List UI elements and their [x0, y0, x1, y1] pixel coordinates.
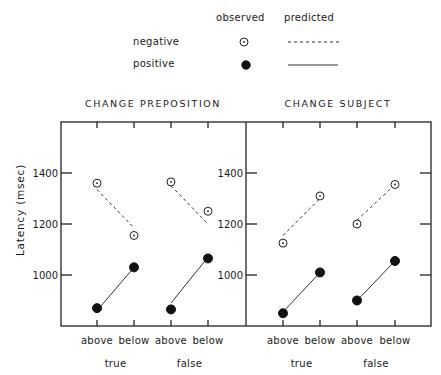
y-tick-label: 1400 — [218, 168, 243, 179]
category-label: below — [192, 335, 223, 346]
observed-negative-point-center — [170, 181, 172, 183]
legend-label-positive: positive — [133, 58, 175, 69]
observed-negative-point-center — [394, 184, 396, 186]
category-label: below — [379, 335, 410, 346]
category-label: above — [267, 335, 299, 346]
group-label: false — [177, 358, 202, 369]
predicted-positive-line — [357, 261, 395, 301]
observed-negative-point-center — [96, 182, 98, 184]
observed-negative-point-center — [207, 210, 209, 212]
y-tick-label: 1200 — [33, 219, 58, 230]
category-label: above — [155, 335, 187, 346]
legend-header-predicted: predicted — [284, 12, 334, 23]
legend-header-observed: observed — [216, 12, 265, 23]
observed-positive-point — [391, 256, 400, 265]
open-circle-marker-icon — [240, 38, 248, 46]
observed-positive-point — [130, 263, 139, 272]
predicted-positive-line — [171, 257, 208, 303]
legend-label-negative: negative — [133, 36, 179, 47]
observed-negative-point-center — [319, 195, 321, 197]
group-label: true — [291, 358, 313, 369]
legend: observed predicted negative positive — [133, 12, 340, 69]
group-label: false — [363, 358, 388, 369]
filled-circle-marker-icon — [242, 61, 250, 69]
predicted-positive-line — [97, 267, 134, 310]
predicted-positive-line — [283, 272, 320, 312]
category-label: below — [304, 335, 335, 346]
observed-negative-point-center — [356, 223, 358, 225]
y-axis-label: Latency (msec) — [14, 164, 26, 256]
y-tick-label: 1400 — [33, 168, 58, 179]
predicted-negative-line — [171, 186, 208, 224]
category-label: above — [341, 335, 373, 346]
predicted-negative-line — [283, 199, 320, 236]
observed-negative-point-center — [282, 242, 284, 244]
observed-positive-point — [279, 309, 288, 318]
category-label: below — [118, 335, 149, 346]
predicted-negative-line — [357, 184, 395, 220]
observed-positive-point — [167, 305, 176, 314]
y-tick-label: 1200 — [218, 219, 243, 230]
category-labels: abovebelowabovebelowtruefalseabovebelowa… — [81, 335, 411, 369]
observed-positive-point — [353, 296, 362, 305]
observed-positive-point — [204, 254, 213, 263]
panel-title-change-preposition: CHANGE PREPOSITION — [85, 98, 221, 109]
y-tick-label: 1000 — [218, 270, 243, 281]
category-label: above — [81, 335, 113, 346]
latency-chart: observed predicted negative positive Lat… — [0, 0, 441, 375]
predicted-negative-line — [97, 190, 134, 228]
y-tick-label: 1000 — [33, 270, 58, 281]
observed-negative-point-center — [133, 235, 135, 237]
group-label: true — [105, 358, 127, 369]
panel-title-change-subject: CHANGE SUBJECT — [285, 98, 392, 109]
observed-positive-point — [93, 304, 102, 313]
observed-positive-point — [316, 268, 325, 277]
